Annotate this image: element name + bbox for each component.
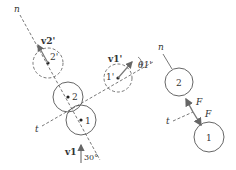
- ball-2-label: 2: [72, 92, 78, 102]
- right-n-axis-label: n: [158, 42, 164, 52]
- right-diagram: n 2 1 t F F: [158, 42, 224, 152]
- ball-1-center: [79, 118, 82, 121]
- v2-after-arrow: [38, 45, 48, 63]
- right-t-axis-line: [173, 112, 193, 121]
- left-diagram: n t 2' v2' 2 1 1' v1' θ1' v1 30°: [14, 4, 153, 163]
- v1-after-label: v1': [107, 54, 122, 64]
- right-t-axis-label: t: [166, 116, 170, 126]
- theta-label: θ1': [138, 60, 152, 70]
- ball-1-after-label: 1': [106, 72, 114, 82]
- force-up-label: F: [195, 97, 203, 107]
- right-ball-1-label: 1: [206, 133, 212, 143]
- force-down-label: F: [204, 109, 212, 119]
- ball-2-center: [66, 95, 69, 98]
- n-axis-label: n: [14, 4, 20, 14]
- t-axis-label: t: [35, 124, 39, 134]
- ball-1-label: 1: [85, 116, 91, 126]
- t-axis-line: [42, 62, 153, 126]
- collision-diagram: n t 2' v2' 2 1 1' v1' θ1' v1 30° n: [0, 0, 236, 170]
- force-up-arrow: [186, 99, 193, 112]
- v2-after-label: v2': [40, 36, 55, 46]
- v1-label: v1: [64, 147, 77, 157]
- right-ball-2-label: 2: [176, 78, 182, 88]
- n-axis-line: [20, 15, 100, 160]
- ball-2-after-label: 2': [50, 52, 58, 62]
- force-down-arrow: [193, 112, 201, 125]
- angle-label: 30°: [84, 153, 98, 162]
- right-n-axis-line: [163, 54, 172, 69]
